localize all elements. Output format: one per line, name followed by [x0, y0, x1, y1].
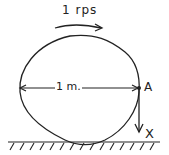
- rotation-arrow-icon: [55, 24, 102, 31]
- velocity-arrow-icon: [135, 88, 143, 132]
- point-a-label: A: [144, 80, 152, 94]
- velocity-label: X: [145, 126, 154, 141]
- ground-hatch: [8, 142, 160, 150]
- rotation-label: 1 rps: [62, 3, 97, 17]
- diagram-canvas: [0, 0, 169, 155]
- diameter-label: 1 m.: [55, 80, 82, 93]
